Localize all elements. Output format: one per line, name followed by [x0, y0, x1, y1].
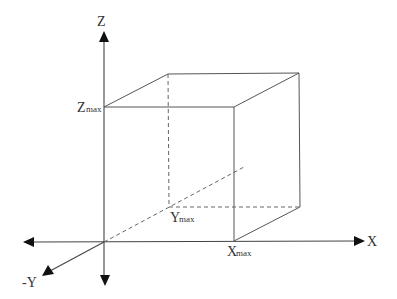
svg-text:Z: Z	[77, 100, 86, 115]
y-max-label: Y max	[170, 210, 195, 225]
z-axis-label: Z	[97, 14, 106, 29]
x-axis-label: X	[367, 234, 377, 249]
z-axis-down-arrow-icon	[100, 275, 110, 286]
x-axis	[23, 236, 365, 247]
svg-text:max: max	[236, 248, 252, 258]
neg-y-arrow-icon	[42, 265, 54, 276]
box-solid-edges	[104, 73, 300, 241]
svg-text:max: max	[86, 104, 102, 114]
x-axis-right-arrow-icon	[354, 236, 365, 246]
z-axis	[99, 31, 110, 286]
y-axis-positive-dashed	[104, 167, 244, 242]
coordinate-box-diagram: Z X -Y Z max Y max X max	[0, 0, 397, 299]
z-max-label: Z max	[77, 100, 102, 115]
diagram-canvas: Z X -Y Z max Y max X max	[0, 0, 397, 299]
svg-text:max: max	[179, 214, 195, 224]
x-max-label: X max	[227, 244, 252, 259]
neg-y-axis-label: -Y	[22, 275, 37, 290]
z-axis-up-arrow-icon	[99, 31, 109, 42]
x-axis-left-arrow-icon	[23, 237, 34, 247]
y-axis	[42, 167, 244, 276]
